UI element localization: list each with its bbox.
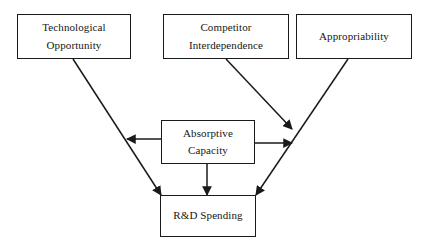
node-label-line-1: Technological bbox=[42, 19, 105, 36]
node-label-line-2: Interdependence bbox=[189, 37, 263, 54]
node-competitor-interdependence[interactable]: Competitor Interdependence bbox=[163, 14, 289, 59]
node-label-line-1: Appropriability bbox=[319, 28, 389, 45]
node-absorptive-capacity[interactable]: Absorptive Capacity bbox=[161, 120, 255, 164]
diagram-canvas: Technological Opportunity Competitor Int… bbox=[0, 0, 425, 247]
node-appropriability[interactable]: Appropriability bbox=[296, 14, 412, 59]
node-label-line-2: Capacity bbox=[188, 142, 228, 159]
node-technological-opportunity[interactable]: Technological Opportunity bbox=[17, 14, 131, 59]
node-label-line-1: Absorptive bbox=[183, 125, 233, 142]
edge-technological-opportunity-to-rd-spending bbox=[73, 59, 161, 195]
node-label-line-1: R&D Spending bbox=[173, 207, 242, 224]
node-label-line-2: Opportunity bbox=[47, 37, 102, 54]
node-label-line-1: Competitor bbox=[200, 19, 251, 36]
edge-competitor-interdependence-to-appropriability-path bbox=[226, 59, 292, 129]
node-rd-spending[interactable]: R&D Spending bbox=[160, 195, 256, 237]
edge-appropriability-to-rd-spending bbox=[256, 59, 348, 195]
